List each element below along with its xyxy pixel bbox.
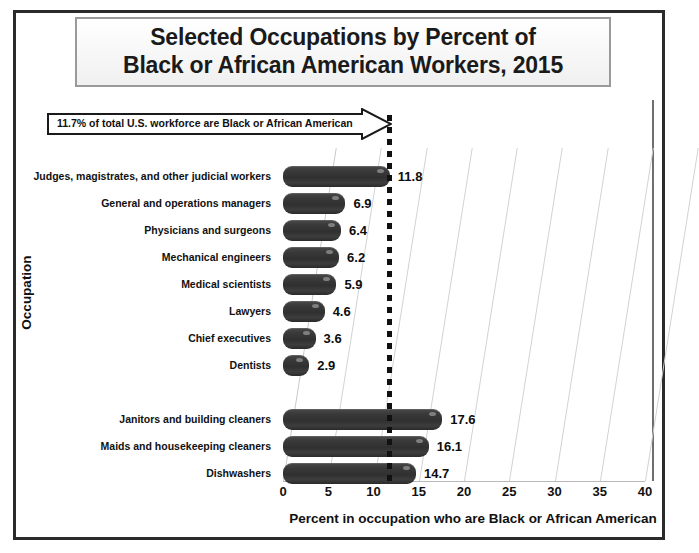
- bar-row: Dentists2.9: [0, 352, 680, 379]
- category-label: Physicians and surgeons: [21, 217, 271, 244]
- category-label: Mechanical engineers: [21, 244, 271, 271]
- bar[interactable]: [283, 166, 390, 187]
- bar-row: Janitors and building cleaners17.6: [0, 406, 680, 433]
- bar-row: Chief executives3.6: [0, 325, 680, 352]
- category-label: Judges, magistrates, and other judicial …: [21, 163, 271, 190]
- bar[interactable]: [283, 436, 429, 457]
- bar-value-label: 3.6: [324, 325, 342, 352]
- category-label: Dishwashers: [21, 460, 271, 487]
- bar-value-label: 2.9: [317, 352, 335, 379]
- bar-row: Judges, magistrates, and other judicial …: [0, 163, 680, 190]
- category-label: Medical scientists: [21, 271, 271, 298]
- bar-value-label: 6.9: [353, 190, 371, 217]
- bar-value-label: 16.1: [437, 433, 462, 460]
- x-axis-title: Percent in occupation who are Black or A…: [283, 511, 663, 526]
- bar[interactable]: [283, 463, 416, 484]
- category-label: Dentists: [21, 352, 271, 379]
- category-label: Chief executives: [21, 325, 271, 352]
- bar-row: Lawyers4.6: [0, 298, 680, 325]
- bar[interactable]: [283, 274, 336, 295]
- category-label: Janitors and building cleaners: [21, 406, 271, 433]
- bar[interactable]: [283, 328, 316, 349]
- category-label: Maids and housekeeping cleaners: [21, 433, 271, 460]
- bar[interactable]: [283, 301, 325, 322]
- annotation-callout: 11.7% of total U.S. workforce are Black …: [47, 108, 392, 140]
- bar[interactable]: [283, 409, 442, 430]
- bar-row: Medical scientists5.9: [0, 271, 680, 298]
- bar-value-label: 6.4: [349, 217, 367, 244]
- bar-value-label: 4.6: [333, 298, 351, 325]
- annotation-text: 11.7% of total U.S. workforce are Black …: [57, 117, 353, 129]
- bar-row: General and operations managers6.9: [0, 190, 680, 217]
- bar-row: Physicians and surgeons6.4: [0, 217, 680, 244]
- bar-row: Mechanical engineers6.2: [0, 244, 680, 271]
- bar-value-label: 11.8: [398, 163, 423, 190]
- category-label: Lawyers: [21, 298, 271, 325]
- bar-value-label: 14.7: [424, 460, 449, 487]
- bar-row: [0, 379, 680, 406]
- bar[interactable]: [283, 247, 339, 268]
- bar-row: Dishwashers14.7: [0, 460, 680, 487]
- bar-value-label: 5.9: [344, 271, 362, 298]
- reference-line-11-7: [387, 115, 392, 483]
- bar[interactable]: [283, 193, 345, 214]
- bar-row: Maids and housekeeping cleaners16.1: [0, 433, 680, 460]
- bar[interactable]: [283, 220, 341, 241]
- y-axis-title: Occupation: [19, 233, 34, 353]
- category-label: General and operations managers: [21, 190, 271, 217]
- bar-value-label: 17.6: [450, 406, 475, 433]
- bar-value-label: 6.2: [347, 244, 365, 271]
- bar[interactable]: [283, 355, 309, 376]
